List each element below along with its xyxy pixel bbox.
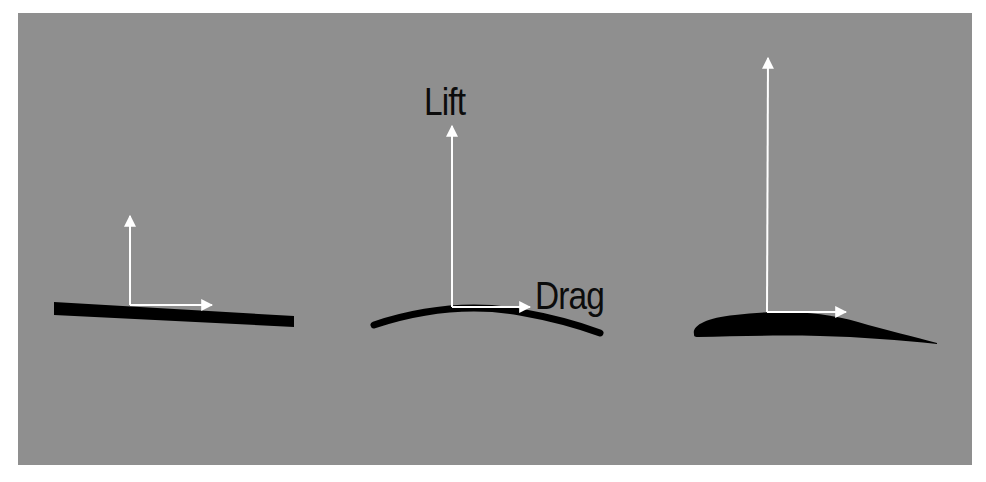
flat-plate-group xyxy=(54,216,294,327)
airfoil-group xyxy=(694,58,937,344)
lift-label: Lift xyxy=(424,82,465,122)
lift-drag-diagram xyxy=(0,0,986,482)
airfoil-shape xyxy=(694,312,937,344)
drag-label: Drag xyxy=(535,276,604,316)
airfoil-lift-arrow-icon xyxy=(767,58,768,312)
